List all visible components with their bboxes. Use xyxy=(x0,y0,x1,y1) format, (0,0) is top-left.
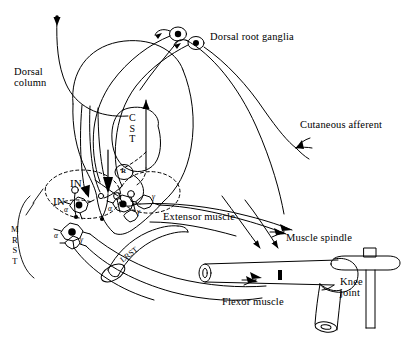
descending-tract-fibers xyxy=(81,105,105,194)
cutaneous-afferent-fiber xyxy=(204,47,312,159)
label-gamma-3: γ xyxy=(137,208,140,216)
label-mrst: M R S T xyxy=(11,224,19,267)
label-dorsal-root-ganglia: Dorsal root ganglia xyxy=(210,31,294,42)
motor-axons-to-flexor xyxy=(74,234,266,300)
label-dorsal-column: Dorsal column xyxy=(14,66,46,88)
cst-descending-arrow xyxy=(143,100,150,168)
label-alpha-3: α xyxy=(54,232,58,240)
label-flexor-muscle: Flexor muscle xyxy=(222,296,284,307)
spinal-reflex-diagram: Dorsal column Dorsal root ganglia Cutane… xyxy=(0,0,413,341)
lrst-band xyxy=(98,226,188,286)
label-knee-joint: Knee joint xyxy=(340,276,363,298)
label-cutaneous-afferent: Cutaneous afferent xyxy=(300,119,382,130)
interneuron-input-arrow xyxy=(103,150,113,194)
interneuron-terminal-2 xyxy=(80,185,93,200)
gamma-motor-neuron-3 xyxy=(124,210,138,222)
label-gamma-2: γ xyxy=(80,236,83,244)
spindle-afferent-to-ganglion xyxy=(186,40,284,214)
dorsal-root-ganglion-cell-1 xyxy=(155,27,187,41)
label-interneuron-1: IN xyxy=(70,178,82,190)
renshaw-cell xyxy=(115,165,144,207)
label-cst: C S T xyxy=(129,113,136,145)
label-alpha-2: α xyxy=(108,205,112,213)
dorsal-column-fiber xyxy=(54,15,129,116)
dorsal-root-ganglion-cell-2 xyxy=(174,37,204,50)
alpha-motor-neuron-3 xyxy=(54,223,90,248)
label-renshaw-cell: R xyxy=(121,168,126,175)
label-extensor-muscle: Extensor muscle xyxy=(163,211,235,222)
label-gamma-1: γ xyxy=(152,193,155,201)
mrst-bracket xyxy=(18,189,44,278)
label-muscle-spindle: Muscle spindle xyxy=(286,232,352,243)
label-alpha-1: α xyxy=(64,206,68,214)
cst-tract-outline xyxy=(112,107,161,171)
